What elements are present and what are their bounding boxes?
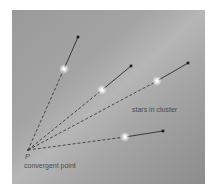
convergent-point-label: convergent point: [24, 162, 76, 169]
sky-background: [12, 10, 205, 184]
arrowhead-icon: [187, 62, 190, 65]
arrowhead-icon: [77, 36, 80, 39]
arrowhead-icon: [162, 130, 165, 133]
arrowhead-icon: [130, 65, 133, 68]
star-core: [63, 68, 66, 71]
cluster-label: stars in cluster: [132, 106, 177, 113]
convergent-point-diagram: P convergent point stars in cluster: [0, 0, 215, 193]
star-core: [124, 136, 127, 139]
star-core: [101, 89, 104, 92]
convergent-point-symbol: P: [25, 153, 30, 160]
star-core: [156, 80, 159, 83]
convergent-point-marker: [27, 149, 29, 151]
